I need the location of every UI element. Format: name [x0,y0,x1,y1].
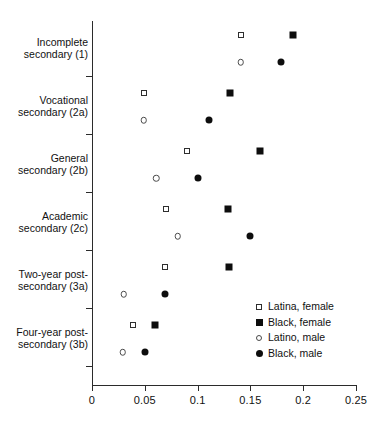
category-label: Academicsecondary (2c) [19,210,88,235]
category-label-line: Incomplete [24,36,88,49]
category-label-line: Vocational [18,94,88,107]
legend-marker-icon [253,335,265,342]
data-point [152,322,159,329]
data-point [278,59,285,66]
y-axis-tick [86,308,92,309]
x-axis-tick-label: 0.2 [295,394,311,406]
y-axis-line [92,21,93,385]
legend-item[interactable]: Black, female [253,315,334,331]
scatter-chart: 00.050.10.150.20.25 Incompletesecondary … [0,0,384,426]
legend-marker-shape [256,304,262,310]
data-point [184,148,190,154]
legend-marker-icon [253,350,265,357]
x-axis-tick [303,385,304,391]
data-point [238,59,245,66]
data-point [194,175,201,182]
x-axis-tick-label: 0.05 [134,394,156,406]
x-axis-tick-label: 0 [89,394,95,406]
x-axis-tick-label: 0.1 [190,394,206,406]
x-axis-tick [92,385,93,391]
category-label-line: secondary (3b) [16,338,88,351]
legend-marker-icon [253,304,265,310]
category-label-line: secondary (3a) [18,280,88,293]
x-axis-tick [198,385,199,391]
category-label-line: General [18,152,88,165]
category-label-line: secondary (2c) [19,222,88,235]
data-point [206,117,213,124]
legend-item[interactable]: Latina, female [253,299,334,315]
legend-item[interactable]: Latino, male [253,330,334,346]
category-label: Generalsecondary (2b) [18,152,88,177]
x-axis-tick [250,385,251,391]
data-point [130,322,136,328]
data-point [120,291,127,298]
data-point [163,206,169,212]
data-point [141,349,148,356]
data-point [174,233,181,240]
category-label: Four-year post-secondary (3b) [16,326,88,351]
legend-label: Latina, female [268,299,334,315]
category-label-line: secondary (1) [24,48,88,61]
legend-marker-icon [253,319,265,326]
data-point [227,90,234,97]
data-point [140,117,147,124]
x-axis-line [92,385,356,386]
legend-label: Latino, male [268,330,325,346]
legend-marker-shape [256,335,263,342]
category-label-line: secondary (2a) [18,106,88,119]
x-axis-tick-label: 0.15 [239,394,261,406]
legend-marker-shape [256,350,263,357]
data-point [226,264,233,271]
data-point [153,175,160,182]
chart-legend: Latina, femaleBlack, femaleLatino, maleB… [253,299,334,361]
x-axis-tick [145,385,146,391]
category-label-line: Academic [19,210,88,223]
x-axis-tick-label: 0.25 [345,394,367,406]
y-axis-tick [86,76,92,77]
data-point [162,264,168,270]
legend-label: Black, male [268,346,322,362]
y-axis-tick [86,366,92,367]
data-point [225,206,232,213]
category-label-line: Two-year post- [18,268,88,281]
y-axis-tick [86,250,92,251]
data-point [247,233,254,240]
category-label: Two-year post-secondary (3a) [18,268,88,293]
legend-item[interactable]: Black, male [253,346,334,362]
legend-marker-shape [256,319,263,326]
data-point [161,291,168,298]
category-label-line: Four-year post- [16,326,88,339]
data-point [256,148,263,155]
category-label: Vocationalsecondary (2a) [18,94,88,119]
legend-label: Black, female [268,315,331,331]
data-point [119,349,126,356]
x-axis-tick [356,385,357,391]
y-axis-tick [86,134,92,135]
category-label: Incompletesecondary (1) [24,36,88,61]
data-point [289,32,296,39]
data-point [141,90,147,96]
data-point [238,32,244,38]
y-axis-tick [86,192,92,193]
category-label-line: secondary (2b) [18,164,88,177]
